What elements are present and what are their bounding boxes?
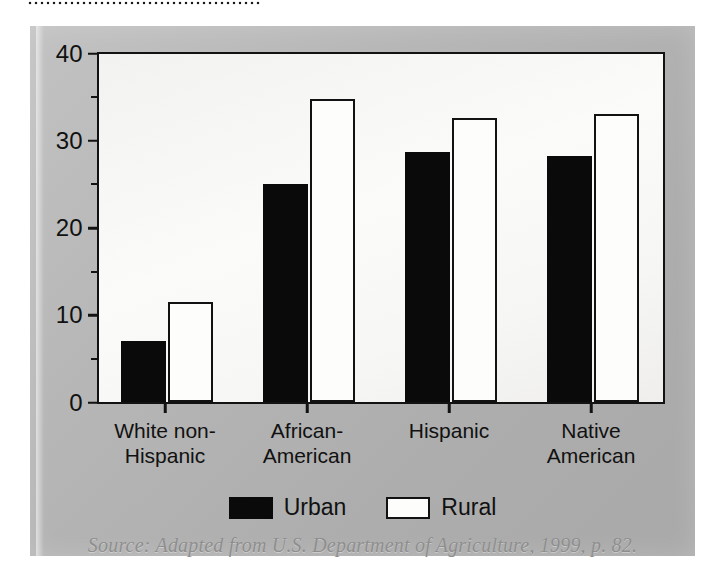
y-tick-mark bbox=[88, 227, 97, 230]
bar-rural-0 bbox=[168, 302, 213, 402]
x-category-line: White non- bbox=[114, 418, 216, 443]
x-category-label-0: White non-Hispanic bbox=[114, 418, 216, 468]
bar-urban-3 bbox=[547, 156, 592, 402]
bar-rural-3 bbox=[594, 114, 639, 402]
y-tick-label: 30 bbox=[56, 127, 83, 155]
x-category-line: Native bbox=[547, 418, 636, 443]
y-tick-label: 20 bbox=[56, 214, 83, 242]
source-note: Source: Adapted from U.S. Department of … bbox=[30, 534, 695, 557]
figure-panel: 010203040 White non-HispanicAfrican-Amer… bbox=[30, 26, 695, 556]
chart-legend: UrbanRural bbox=[30, 494, 695, 521]
y-tick-label: 40 bbox=[56, 40, 83, 68]
x-category-label-1: African-American bbox=[263, 418, 352, 468]
y-tick-mark bbox=[88, 52, 97, 55]
y-tick-label: 0 bbox=[69, 389, 83, 417]
x-category-line: American bbox=[263, 443, 352, 468]
x-category-label-3: NativeAmerican bbox=[547, 418, 636, 468]
x-category-line: Hispanic bbox=[409, 418, 490, 443]
legend-entry-rural[interactable]: Rural bbox=[386, 494, 496, 521]
y-tick-mark bbox=[88, 401, 97, 404]
legend-entry-urban[interactable]: Urban bbox=[229, 494, 347, 521]
plot-area bbox=[97, 52, 665, 404]
y-tick-mark bbox=[88, 140, 97, 143]
legend-swatch-rural bbox=[386, 497, 430, 519]
bar-rural-1 bbox=[310, 99, 355, 402]
x-tick-mark-1 bbox=[306, 402, 309, 413]
x-axis: White non-HispanicAfrican-AmericanHispan… bbox=[97, 412, 665, 482]
legend-label: Rural bbox=[441, 494, 496, 521]
x-category-line: American bbox=[547, 443, 636, 468]
x-category-line: Hispanic bbox=[114, 443, 216, 468]
bar-urban-1 bbox=[263, 184, 308, 402]
x-tick-mark-2 bbox=[448, 402, 451, 413]
y-tick-label: 10 bbox=[56, 301, 83, 329]
legend-swatch-urban bbox=[229, 497, 273, 519]
x-tick-mark-3 bbox=[590, 402, 593, 413]
legend-label: Urban bbox=[284, 494, 347, 521]
y-axis: 010203040 bbox=[30, 26, 97, 404]
bar-rural-2 bbox=[452, 118, 497, 402]
bar-urban-0 bbox=[121, 341, 166, 402]
bars-layer bbox=[99, 54, 663, 402]
bar-urban-2 bbox=[405, 152, 450, 402]
y-tick-mark bbox=[88, 314, 97, 317]
x-tick-mark-0 bbox=[164, 402, 167, 413]
x-category-line: African- bbox=[263, 418, 352, 443]
dotted-rule-decoration bbox=[28, 1, 260, 6]
x-category-label-2: Hispanic bbox=[409, 418, 490, 443]
